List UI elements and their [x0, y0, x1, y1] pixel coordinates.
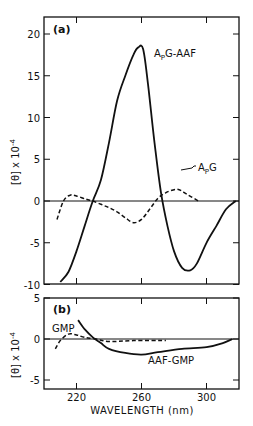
- y-tick-label: 5: [34, 293, 40, 304]
- y-tick-label: 15: [27, 71, 40, 82]
- panel-a-y-axis-label: [θ] x 10-4: [9, 139, 21, 185]
- y-tick-label: 0: [34, 334, 40, 345]
- series-aaf-gmp-label: AAF-GMP: [148, 355, 194, 366]
- series-apg-label: APG: [198, 162, 217, 176]
- x-axis-label: WAVELENGTH (nm): [90, 405, 194, 416]
- panel-a-frame: [44, 17, 239, 284]
- y-tick-label: 0: [34, 196, 40, 207]
- panel-a-label: (a): [53, 23, 70, 36]
- series-apg-line: [57, 189, 198, 222]
- panel-b-frame: [44, 298, 239, 389]
- series-apg-aaf-label: APG-AAF: [154, 48, 196, 62]
- series-apg-leader: [181, 166, 196, 170]
- series-gmp-line: [55, 334, 165, 349]
- panel-b-x-ticks: 220260300: [67, 298, 216, 403]
- x-tick-label: 260: [132, 392, 151, 403]
- panel-b: 50-5 220260300 (b) GMP AAF-GMP [θ] x 10-…: [9, 293, 239, 416]
- y-tick-label: 5: [34, 154, 40, 165]
- y-tick-label: 10: [27, 113, 40, 124]
- y-tick-label: -5: [30, 375, 40, 386]
- x-tick-label: 300: [197, 392, 216, 403]
- y-tick-label: -10: [24, 280, 40, 291]
- panel-b-y-axis-label: [θ] x 10-4: [9, 332, 21, 378]
- series-aaf-gmp-line: [78, 320, 232, 355]
- cd-spectra-chart: 20151050-5-10 (a) APG-AAF APG [θ] x 10-4…: [0, 0, 253, 426]
- panel-a-y-ticks: 20151050-5-10: [24, 29, 239, 291]
- x-tick-label: 220: [67, 392, 86, 403]
- panel-b-label: (b): [53, 303, 71, 316]
- y-tick-label: -5: [30, 238, 40, 249]
- y-tick-label: 20: [27, 29, 40, 40]
- panel-a: 20151050-5-10 (a) APG-AAF APG [θ] x 10-4: [9, 17, 239, 291]
- series-gmp-label: GMP: [52, 323, 74, 334]
